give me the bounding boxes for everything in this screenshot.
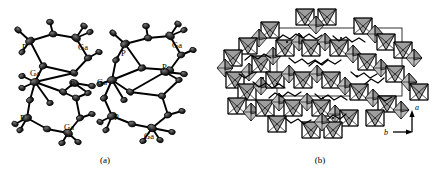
axis-label-a: a (415, 103, 419, 112)
panel-a-molecular-structures: P Ga Ga P P Ga P Ga Ga P P Ga (0, 0, 215, 180)
ortep-drawing: P Ga Ga P P Ga P Ga Ga P P Ga (0, 0, 215, 150)
axis-label-b: b (384, 128, 388, 137)
atom-label: P (162, 62, 167, 72)
atom-label: P (114, 112, 119, 122)
atom-label: Ga (172, 40, 182, 50)
figure-container: P Ga Ga P P Ga P Ga Ga P P Ga (0, 0, 435, 180)
thermal-ellipsoids-left (11, 19, 103, 146)
atom-label: Ga (144, 131, 154, 141)
framework-drawing: a b (215, 0, 435, 150)
panel-b-framework-packing: a b (215, 0, 435, 180)
atom-label: P (22, 42, 27, 52)
atom-label: Ga (64, 122, 74, 132)
atom-label: Ga (30, 68, 40, 78)
atom-label: P (20, 113, 25, 123)
atom-label: P (70, 79, 75, 89)
caption-panel-b: (b) (300, 155, 340, 165)
atom-label: Ga (97, 77, 107, 87)
atom-label: Ga (78, 42, 88, 52)
caption-panel-a: (a) (85, 155, 125, 165)
atom-label: P (121, 48, 126, 58)
